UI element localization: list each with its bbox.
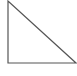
triangle-diagram [0,0,77,76]
right-triangle-shape [8,1,76,63]
